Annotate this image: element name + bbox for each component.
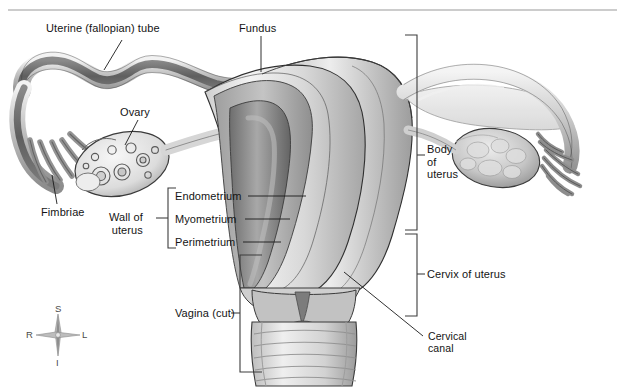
label-fundus: Fundus xyxy=(239,22,276,35)
compass-right-label: R xyxy=(26,329,33,340)
label-myometrium: Myometrium xyxy=(175,213,237,226)
compass-left-label: L xyxy=(82,329,87,340)
anatomy-illustration xyxy=(0,0,625,389)
left-ovary-sectioned xyxy=(67,121,176,207)
label-uterine-tube: Uterine (fallopian) tube xyxy=(46,22,160,35)
uterus xyxy=(205,57,412,312)
vagina-cut xyxy=(251,322,357,386)
label-endometrium: Endometrium xyxy=(175,190,242,203)
compass-inferior-label: I xyxy=(56,357,59,368)
label-wall-of-uterus: Wall of uterus xyxy=(109,211,143,236)
label-cervical-canal: Cervical canal xyxy=(428,330,467,354)
orientation-compass-icon xyxy=(36,314,80,356)
label-ovary: Ovary xyxy=(120,106,150,119)
label-body-of-uterus: Body of uterus xyxy=(427,143,458,181)
label-fimbriae: Fimbriae xyxy=(41,206,85,219)
compass-superior-label: S xyxy=(55,303,61,314)
label-cervix-of-uterus: Cervix of uterus xyxy=(427,268,506,281)
label-perimetrium: Perimetrium xyxy=(175,236,235,249)
cervix-bracket xyxy=(405,234,417,316)
leader-uterine-tube xyxy=(104,40,122,70)
figure-page: Uterine (fallopian) tube Fundus Ovary Fi… xyxy=(0,0,625,389)
right-ovary xyxy=(448,122,545,194)
label-vagina-cut: Vagina (cut) xyxy=(175,307,235,320)
